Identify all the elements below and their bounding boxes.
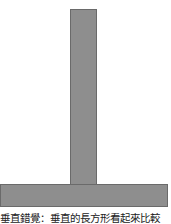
- figure-caption: 垂直錯覺：垂直的長方形看起來比較: [0, 211, 171, 224]
- illusion-figure: 垂直錯覺：垂直的長方形看起來比較: [0, 0, 171, 224]
- horizontal-rectangle: [0, 184, 168, 207]
- vertical-rectangle: [70, 9, 97, 185]
